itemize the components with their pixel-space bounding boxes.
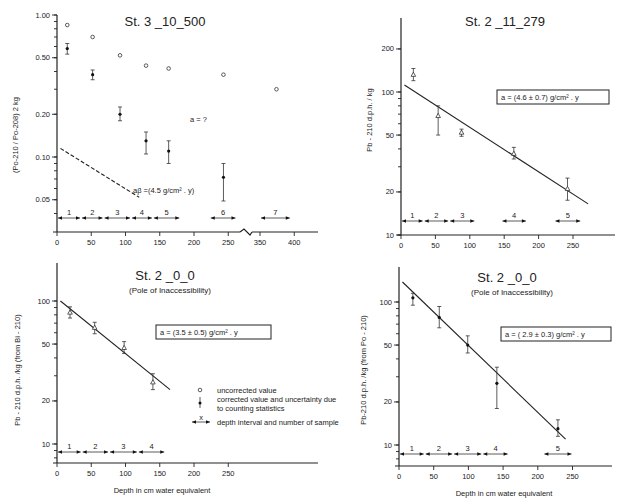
legend-label: depth interval and number of sample: [217, 418, 339, 427]
legend-label: uncorrected value: [217, 386, 277, 395]
data-point-triangle: [565, 186, 570, 190]
depth-interval-arrow-right: [522, 219, 526, 223]
depth-interval-arrow-left: [110, 450, 114, 454]
y-tick-label: 50: [384, 341, 392, 350]
depth-interval-arrow-left: [132, 216, 136, 220]
depth-interval-number: 5: [566, 211, 570, 220]
depth-interval-arrow-left: [211, 216, 215, 220]
data-point-triangle: [512, 151, 517, 155]
depth-interval-number: 3: [460, 211, 464, 220]
y-tick-label: 100: [37, 297, 50, 306]
data-point-uncorrected: [222, 73, 226, 77]
depth-interval-arrow-right: [175, 216, 179, 220]
x-axis-label: Depth in cm water equivalent: [114, 486, 212, 495]
depth-interval-arrow-right: [231, 216, 235, 220]
depth-interval-number: 7: [273, 208, 277, 217]
depth-interval-number: 1: [410, 211, 414, 220]
y-tick-label: 10: [42, 440, 50, 449]
axis-break: [240, 229, 252, 235]
x-tick-label: 50: [430, 472, 438, 481]
data-point-corrected: [167, 150, 170, 153]
y-tick-label: 10: [384, 441, 392, 450]
data-point-uncorrected: [167, 67, 171, 71]
panel-st2-11-279: 200100502010050100150200250St. 2 _11_279…: [365, 14, 615, 250]
x-tick-label: 0: [55, 238, 59, 247]
x-tick-label: 150: [153, 469, 166, 478]
data-point-corrected: [466, 343, 469, 346]
annotation-text: a = (3.5 ± 0.5) g/cm² . y: [160, 328, 238, 337]
data-point-corrected: [144, 139, 147, 142]
depth-interval-arrow-right: [148, 216, 152, 220]
fit-line: [60, 301, 170, 390]
x-tick-label: 0: [399, 241, 403, 250]
y-tick-label: 20: [42, 396, 50, 405]
data-point-uncorrected: [91, 35, 95, 39]
annotation-text: a = ( 2.9 ± 0.3) g/cm² . y: [505, 330, 585, 339]
depth-interval-arrow-left: [483, 452, 487, 456]
x-tick-label: 250: [222, 469, 235, 478]
y-tick-label: 100: [381, 88, 394, 97]
x-tick-label: 250: [566, 472, 579, 481]
data-point-triangle: [459, 130, 464, 134]
data-point-corrected: [438, 316, 441, 319]
y-axis-label: Pb - 210 d.p.h. / kg: [365, 88, 374, 151]
x-tick-label: 200: [188, 238, 201, 247]
y-tick-label: 0.20: [35, 110, 50, 119]
depth-interval-number: 3: [115, 208, 119, 217]
data-point-corrected: [66, 47, 69, 50]
depth-interval-arrow-right: [76, 216, 80, 220]
depth-interval-arrow-left: [502, 219, 506, 223]
depth-interval-arrow-right: [576, 219, 580, 223]
fit-line: [402, 282, 565, 439]
depth-interval-arrow-left: [400, 452, 404, 456]
y-axis-label: Pb - 210 d.p.h. /kg (from Bi - 210): [13, 314, 22, 426]
y-tick-label: 0.50: [35, 53, 50, 62]
x-tick-label: 250: [222, 238, 235, 247]
data-point-triangle: [436, 113, 441, 117]
legend-label-2: to counting statistics: [217, 404, 285, 413]
depth-interval-arrow-right: [504, 452, 508, 456]
depth-interval-arrow-right: [419, 219, 423, 223]
depth-interval-arrow-right: [448, 452, 452, 456]
x-tick-label: 400: [288, 238, 301, 247]
y-tick-label: 50: [42, 340, 50, 349]
depth-interval-arrow-left: [425, 219, 429, 223]
depth-interval-number: 5: [556, 444, 560, 453]
legend-dot-icon: [199, 402, 202, 405]
data-point-triangle: [122, 345, 127, 349]
data-point-uncorrected: [275, 87, 279, 91]
depth-interval-arrow-left: [82, 216, 86, 220]
x-tick-label: 100: [462, 472, 475, 481]
depth-interval-arrow-left: [402, 219, 406, 223]
data-point-uncorrected: [118, 54, 122, 58]
figure: 1.000.500.200.100.0505010015020025035040…: [0, 0, 622, 504]
depth-interval-arrow-left: [139, 450, 143, 454]
x-tick-label: 150: [498, 241, 511, 250]
depth-interval-number: 2: [93, 442, 97, 451]
x-tick-label: 100: [119, 238, 132, 247]
depth-interval-arrow-right: [77, 450, 81, 454]
chart-title: St. 2 _11_279: [465, 14, 545, 29]
data-point-triangle: [151, 380, 156, 384]
depth-interval-number: 4: [149, 442, 153, 451]
depth-interval-arrow-right: [160, 450, 164, 454]
chart-title: St. 2 _0_0: [477, 270, 536, 285]
depth-interval-arrow-right: [99, 216, 103, 220]
data-point-corrected: [495, 382, 498, 385]
reference-line-label: aβ =(4.5 g/cm² . y): [133, 186, 195, 195]
data-point-corrected: [411, 296, 414, 299]
legend: uncorrected valuecorrected value and unc…: [192, 386, 339, 427]
data-point-uncorrected: [65, 23, 69, 27]
x-tick-label: 250: [567, 241, 580, 250]
x-tick-label: 150: [153, 238, 166, 247]
reference-line: [60, 148, 139, 197]
legend-open-circle-icon: [198, 388, 202, 392]
y-tick-label: 1.00: [35, 11, 50, 20]
data-point-uncorrected: [144, 64, 148, 68]
legend-arrow-right-icon: [206, 420, 210, 424]
depth-interval-number: 3: [466, 444, 470, 453]
x-tick-label: 200: [532, 472, 545, 481]
depth-interval-number: 4: [512, 211, 516, 220]
depth-interval-arrow-left: [454, 452, 458, 456]
legend-interval-symbol: x: [199, 413, 203, 422]
